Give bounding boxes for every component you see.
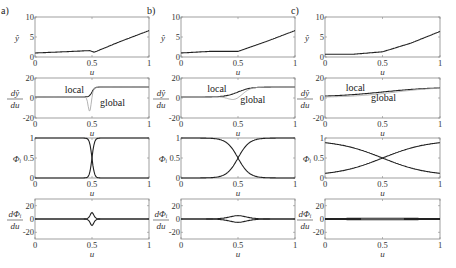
y-axis-label-num: dŷ [301, 88, 310, 98]
x-tick-label: 1 [438, 58, 442, 68]
panel-label: a) [1, 5, 9, 17]
x-axis-label: u [90, 128, 95, 138]
x-tick-label: 1 [293, 119, 297, 129]
x-axis-label: u [236, 188, 241, 198]
x-tick-label: 1 [293, 179, 297, 189]
y-tick-label: 0 [30, 173, 34, 183]
figure: 00.51u0510ŷ00.51u-20020dŷdulocalglobal00… [0, 0, 456, 268]
x-tick-label: 1 [147, 240, 151, 250]
x-axis-label: u [380, 67, 385, 77]
series-y-hat [181, 31, 295, 53]
y-tick-label: -20 [313, 227, 324, 237]
x-tick-label: 0 [179, 240, 183, 250]
y-tick-label: 1 [320, 133, 324, 143]
axes-frame [325, 17, 440, 57]
y-axis-label-den: du [11, 221, 21, 231]
y-tick-label: 0.5 [313, 153, 324, 163]
y-tick-label: 0 [176, 173, 180, 183]
y-tick-label: 20 [26, 73, 35, 83]
y-tick-label: 5 [30, 32, 34, 42]
x-tick-label: 1 [438, 119, 442, 129]
y-axis-label: Φᵢ [303, 154, 312, 164]
x-axis-label: u [380, 188, 385, 198]
y-tick-label: -20 [169, 227, 180, 237]
y-axis-label-den: du [157, 221, 167, 231]
series-global [181, 87, 295, 100]
x-axis-label: u [90, 249, 95, 259]
x-axis-label: u [380, 128, 385, 138]
series-dPhi_2 [181, 216, 295, 219]
y-axis-label: ŷ [14, 33, 19, 43]
y-axis-label: ŷ [304, 33, 309, 43]
y-axis-label-den: du [301, 221, 311, 231]
panel-label: b) [147, 5, 155, 17]
series-y-hat [35, 31, 149, 53]
x-tick-label: 0 [33, 240, 37, 250]
y-axis-label-den: du [301, 100, 311, 110]
y-tick-label: -20 [23, 113, 34, 123]
x-axis-label: u [236, 67, 241, 77]
y-tick-label: 0 [30, 52, 34, 62]
y-axis-label-num: dΦᵢ [155, 209, 168, 219]
annotation-local: local [207, 83, 227, 94]
y-axis-label-num: dΦᵢ [9, 209, 22, 219]
series-dPhi_2 [35, 213, 149, 220]
y-tick-label: -20 [23, 227, 34, 237]
y-tick-label: 0 [320, 52, 324, 62]
series-Phi_2 [181, 138, 295, 178]
x-tick-label: 1 [438, 179, 442, 189]
y-tick-label: -20 [169, 113, 180, 123]
x-tick-label: 1 [438, 240, 442, 250]
y-axis-label-num: dŷ [157, 88, 166, 98]
y-axis-label: Φᵢ [13, 154, 22, 164]
annotation-global: global [100, 97, 125, 108]
y-tick-label: 20 [26, 201, 35, 211]
y-tick-label: 10 [316, 12, 325, 22]
series-global [35, 87, 149, 111]
y-tick-label: 0 [30, 214, 34, 224]
annotation-global: global [371, 92, 396, 103]
y-axis-label-num: dΦᵢ [299, 209, 312, 219]
y-axis-label: Φᵢ [159, 154, 168, 164]
y-tick-label: 0 [320, 93, 324, 103]
series-local [181, 87, 295, 97]
y-tick-label: 1 [176, 133, 180, 143]
x-axis-label: u [90, 67, 95, 77]
x-axis-label: u [380, 249, 385, 259]
series-dPhi_1 [35, 219, 149, 226]
y-tick-label: 0 [320, 214, 324, 224]
x-tick-label: 1 [147, 119, 151, 129]
x-tick-label: 1 [293, 58, 297, 68]
y-tick-label: 20 [172, 201, 181, 211]
x-tick-label: 1 [147, 179, 151, 189]
x-axis-label: u [90, 188, 95, 198]
series-Phi_2 [35, 138, 149, 178]
x-axis-label: u [236, 249, 241, 259]
y-tick-label: 20 [316, 201, 325, 211]
y-tick-label: 0 [320, 173, 324, 183]
y-tick-label: 0 [176, 52, 180, 62]
y-tick-label: 1 [30, 133, 34, 143]
y-tick-label: 0.5 [23, 153, 34, 163]
y-axis-label-den: du [11, 100, 21, 110]
y-axis-label-den: du [157, 100, 167, 110]
x-axis-label: u [236, 128, 241, 138]
y-tick-label: 10 [172, 12, 181, 22]
series-Phi_2 [325, 143, 440, 174]
y-tick-label: 0 [176, 214, 180, 224]
annotation-local: local [65, 84, 85, 95]
y-tick-label: 20 [172, 73, 181, 83]
x-tick-label: 1 [147, 58, 151, 68]
y-tick-label: 5 [176, 32, 180, 42]
panel-label: c) [291, 5, 299, 17]
x-tick-label: 1 [293, 240, 297, 250]
y-tick-label: -20 [313, 113, 324, 123]
y-tick-label: 0 [30, 93, 34, 103]
y-tick-label: 10 [26, 12, 35, 22]
y-axis-label: ŷ [160, 33, 165, 43]
y-axis-label-num: dŷ [11, 88, 20, 98]
annotation-local: local [346, 82, 366, 93]
y-tick-label: 0.5 [169, 153, 180, 163]
series-y-hat [325, 31, 440, 54]
y-tick-label: 0 [176, 93, 180, 103]
